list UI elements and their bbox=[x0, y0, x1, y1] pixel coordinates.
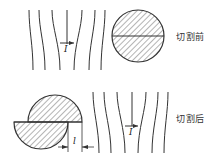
current-arrow-before: I bbox=[60, 41, 74, 54]
dimension-symbol: l bbox=[73, 136, 76, 146]
field-lines-after bbox=[93, 92, 168, 153]
label-before-cutting: 切割前 bbox=[176, 30, 205, 43]
conductor-after-cutting bbox=[14, 95, 82, 149]
current-symbol-before: I bbox=[63, 44, 68, 54]
conductor-before-cutting bbox=[112, 10, 164, 62]
field-lines-before bbox=[29, 10, 105, 70]
current-symbol-after: I bbox=[128, 127, 133, 137]
label-after-cutting: 切割后 bbox=[176, 112, 205, 125]
diagram-canvas: I l I bbox=[0, 0, 212, 158]
current-arrow-after: I bbox=[125, 124, 138, 137]
